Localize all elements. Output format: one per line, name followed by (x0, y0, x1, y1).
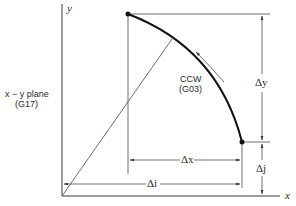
plane-label: x − y plane (5, 89, 49, 99)
dj-label: Δj (256, 162, 266, 174)
di-label: Δi (147, 177, 157, 189)
radius-line (62, 39, 172, 196)
x-axis-label: x (284, 189, 290, 201)
dy-label: Δy (255, 76, 268, 88)
start-point (126, 12, 131, 17)
plane-gcode-label: (G17) (15, 99, 38, 109)
end-point (240, 140, 245, 145)
arc-interpolation-diagram: y x x − y plane (G17) CCW (G03) Δy Δj Δx… (0, 0, 296, 206)
y-axis-label: y (66, 2, 72, 14)
g03-label: (G03) (179, 84, 202, 94)
ccw-label: CCW (180, 74, 202, 84)
dx-label: Δx (181, 153, 194, 165)
